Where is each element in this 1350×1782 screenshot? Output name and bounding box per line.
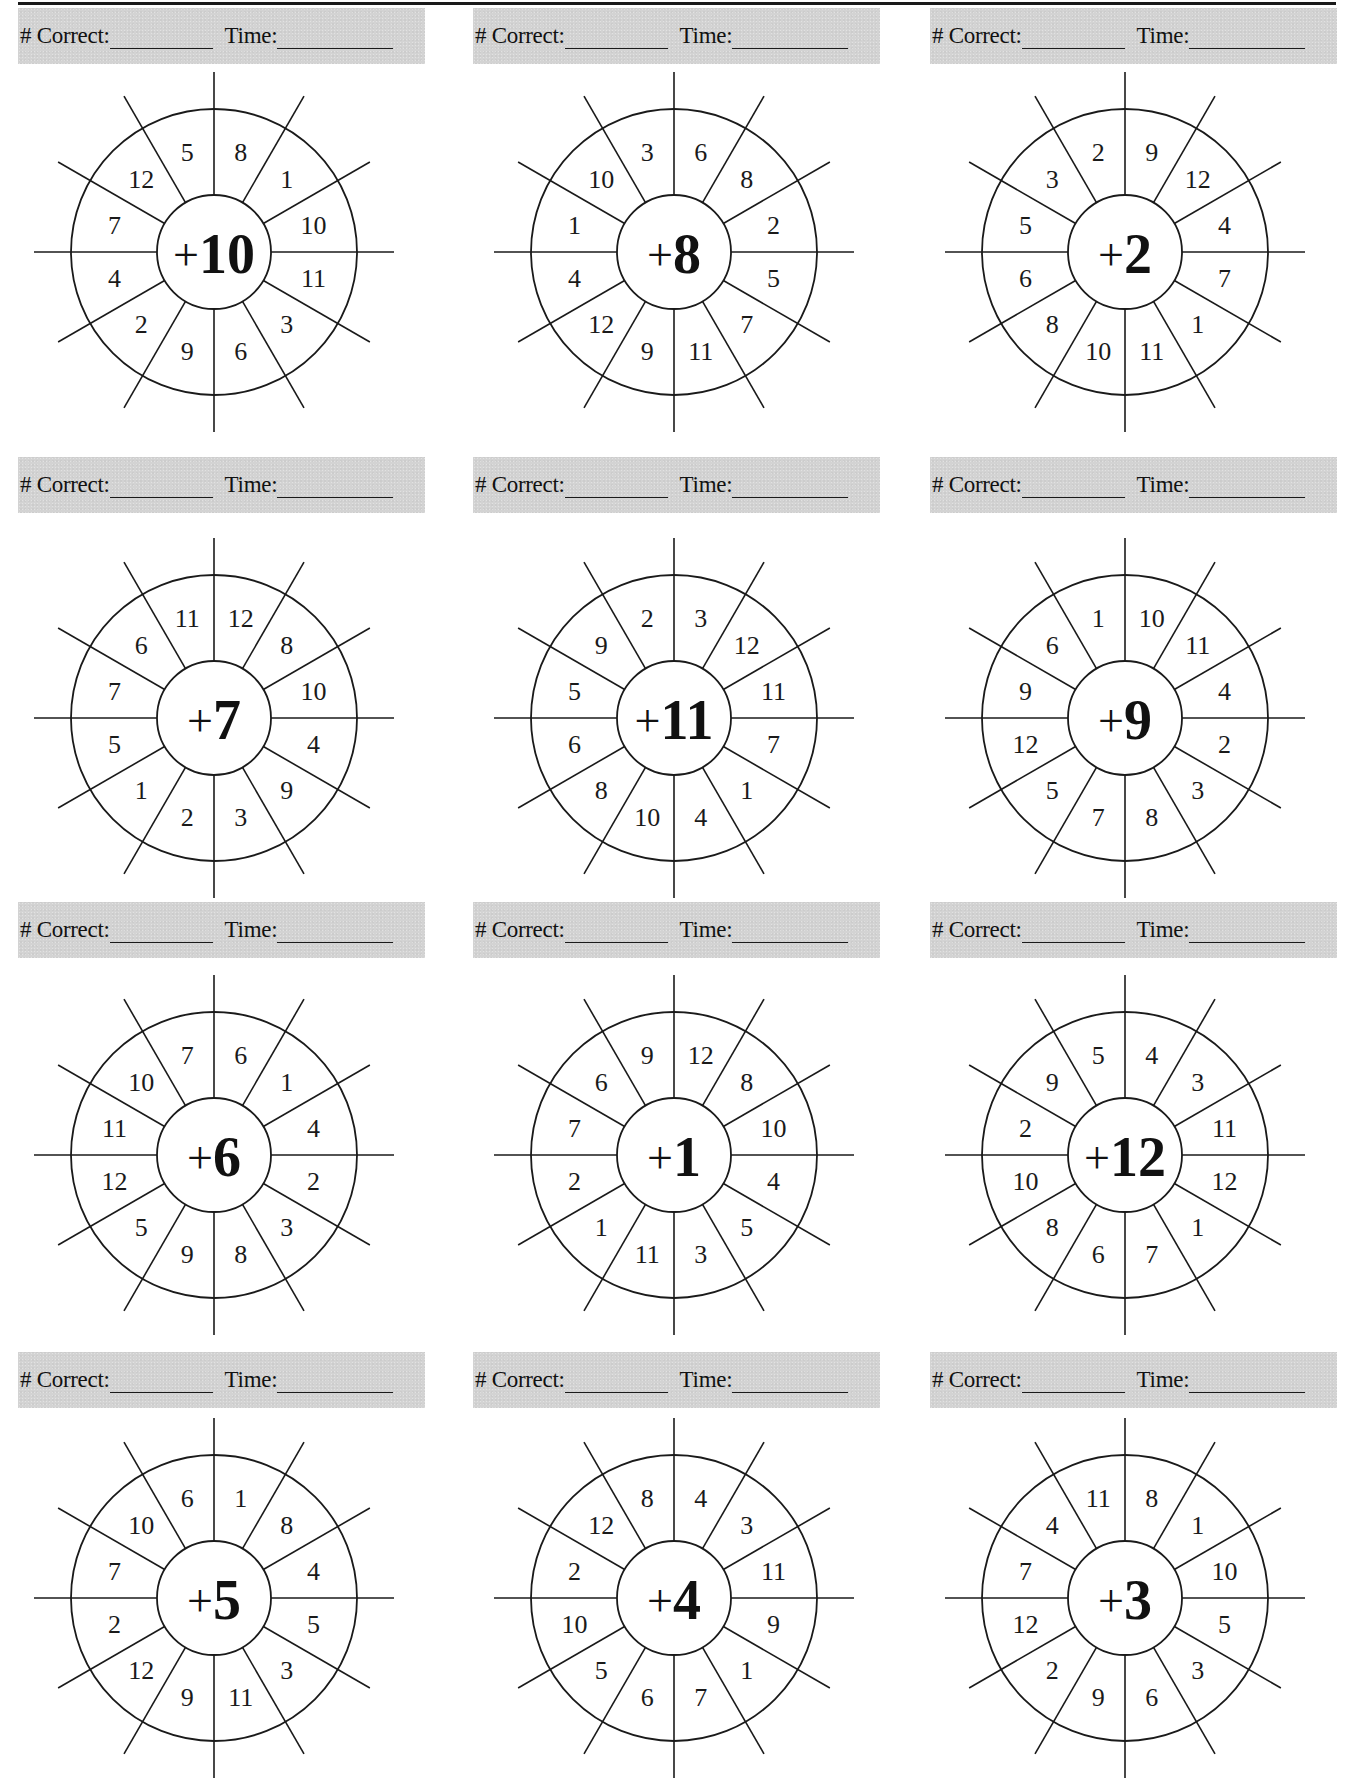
addend-value: 2 (1124, 223, 1152, 285)
time-field[interactable] (1189, 28, 1305, 49)
wheel-number: 1 (1092, 604, 1105, 633)
wheel-number: 2 (108, 1610, 121, 1639)
wheel-number: 7 (694, 1683, 707, 1712)
wheel-spoke (243, 999, 305, 1106)
plus-operator: + (1084, 1132, 1110, 1183)
time-label: Time: (225, 1367, 278, 1393)
wheel-number: 8 (234, 1240, 247, 1269)
correct-count-field[interactable] (1022, 28, 1125, 49)
wheel-number: 6 (1019, 264, 1032, 293)
wheel-number: 4 (108, 264, 121, 293)
center-addend-label: +4 (647, 1569, 701, 1631)
score-header-bar: # Correct:Time: (18, 902, 425, 958)
wheel-spoke (584, 999, 646, 1106)
score-header-bar: # Correct:Time: (930, 902, 1337, 958)
time-field[interactable] (732, 922, 848, 943)
wheel-number: 6 (1145, 1683, 1158, 1712)
correct-count-field[interactable] (1022, 922, 1125, 943)
addend-value: 1 (673, 1126, 701, 1188)
wheel-number: 7 (568, 1114, 581, 1143)
wheel-number: 11 (228, 1683, 253, 1712)
wheel-spoke (703, 1442, 765, 1549)
wheel-number: 8 (1145, 1484, 1158, 1513)
time-field[interactable] (732, 1372, 848, 1393)
correct-label: # Correct: (20, 1367, 110, 1393)
wheel-diagram: 912471111086532+2 (935, 62, 1315, 442)
wheel-number: 2 (1218, 730, 1231, 759)
correct-count-field[interactable] (565, 922, 668, 943)
wheel-number: 12 (228, 604, 254, 633)
wheel-number: 9 (595, 631, 608, 660)
wheel-number: 9 (1019, 677, 1032, 706)
wheel-number: 3 (1046, 165, 1059, 194)
wheel-number: 5 (307, 1610, 320, 1639)
wheel-number: 12 (128, 1656, 154, 1685)
wheel-number: 5 (568, 677, 581, 706)
wheel-number: 6 (641, 1683, 654, 1712)
wheel-number: 3 (1191, 1656, 1204, 1685)
wheel-number: 5 (1019, 211, 1032, 240)
plus-operator: + (173, 229, 199, 280)
wheel-number: 4 (568, 264, 581, 293)
time-field[interactable] (732, 28, 848, 49)
time-field[interactable] (1189, 1372, 1305, 1393)
score-header-bar: # Correct:Time: (930, 457, 1337, 513)
time-field[interactable] (277, 1372, 393, 1393)
correct-count-field[interactable] (565, 1372, 668, 1393)
wheel-spoke (703, 96, 765, 203)
wheel-number: 6 (234, 337, 247, 366)
wheel-number: 8 (280, 631, 293, 660)
addition-wheel: 811053692127411+3 (935, 1408, 1315, 1782)
addend-value: 4 (673, 1569, 701, 1631)
center-addend-label: +6 (187, 1126, 241, 1188)
wheel-number: 4 (1145, 1041, 1158, 1070)
time-label: Time: (680, 1367, 733, 1393)
wheel-spoke (703, 1204, 765, 1311)
correct-count-field[interactable] (1022, 1372, 1125, 1393)
plus-operator: + (1098, 229, 1124, 280)
addend-value: 11 (661, 689, 714, 751)
time-field[interactable] (1189, 477, 1305, 498)
addition-wheel: 431191765102128+4 (484, 1408, 864, 1782)
wheel-number: 8 (740, 1068, 753, 1097)
wheel-number: 11 (301, 264, 326, 293)
wheel-diagram: 431191765102128+4 (484, 1408, 864, 1782)
plus-operator: + (647, 1575, 673, 1626)
center-addend-label: +5 (187, 1569, 241, 1631)
time-field[interactable] (277, 922, 393, 943)
correct-label: # Correct: (20, 917, 110, 943)
wheel-number: 1 (234, 1484, 247, 1513)
correct-label: # Correct: (475, 917, 565, 943)
wheel-number: 2 (767, 211, 780, 240)
correct-count-field[interactable] (565, 477, 668, 498)
correct-count-field[interactable] (565, 28, 668, 49)
correct-count-field[interactable] (110, 28, 213, 49)
correct-count-field[interactable] (110, 922, 213, 943)
wheel-number: 10 (634, 803, 660, 832)
time-field[interactable] (277, 477, 393, 498)
wheel-number: 3 (280, 1656, 293, 1685)
correct-count-field[interactable] (1022, 477, 1125, 498)
addition-wheel: 811011369247125+10 (24, 62, 404, 442)
correct-count-field[interactable] (110, 1372, 213, 1393)
correct-label: # Correct: (932, 917, 1022, 943)
correct-count-field[interactable] (110, 477, 213, 498)
time-label: Time: (1137, 1367, 1190, 1393)
wheel-spoke (1154, 1204, 1216, 1311)
score-header-bar: # Correct:Time: (473, 1352, 880, 1408)
wheel-number: 3 (1191, 776, 1204, 805)
wheel-number: 1 (135, 776, 148, 805)
wheel-number: 10 (1013, 1167, 1039, 1196)
time-field[interactable] (1189, 922, 1305, 943)
time-field[interactable] (732, 477, 848, 498)
wheel-number: 11 (635, 1240, 660, 1269)
wheel-spoke (1154, 999, 1216, 1106)
time-field[interactable] (277, 28, 393, 49)
center-addend-label: +12 (1084, 1126, 1166, 1188)
wheel-number: 12 (588, 1511, 614, 1540)
correct-label: # Correct: (475, 23, 565, 49)
wheel-spoke (243, 301, 305, 408)
wheel-number: 6 (1046, 631, 1059, 660)
addition-wheel: 184531191227106+5 (24, 1408, 404, 1782)
center-addend-label: +8 (647, 223, 701, 285)
